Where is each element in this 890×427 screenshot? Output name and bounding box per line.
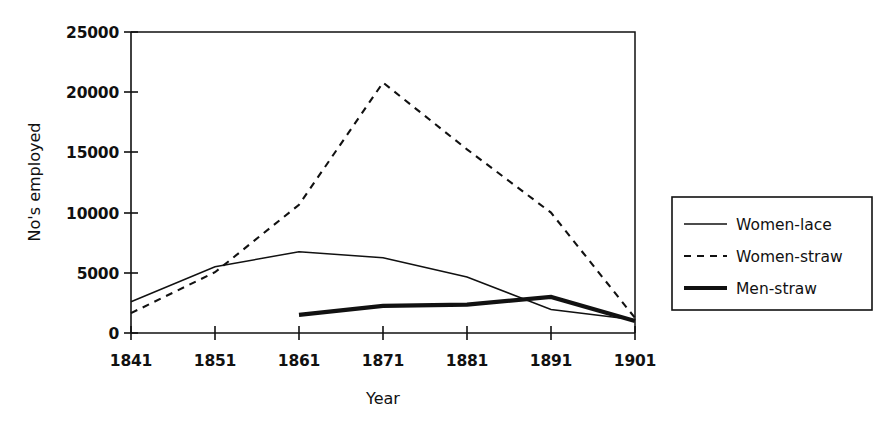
y-axis-tick-labels: 25000 20000 15000 10000 5000 0 [66, 24, 119, 343]
chart-figure: 25000 20000 15000 10000 5000 0 No's empl… [0, 0, 890, 427]
x-tick-label-1841: 1841 [110, 352, 152, 370]
x-tick-label-1891: 1891 [530, 352, 572, 370]
x-axis-title: Year [365, 389, 400, 408]
plot-frame [131, 32, 635, 333]
legend: Women-lace Women-straw Men-straw [672, 197, 872, 310]
x-tick-label-1851: 1851 [194, 352, 236, 370]
y-tick-label-15000: 15000 [66, 144, 119, 162]
y-tick-label-10000: 10000 [66, 205, 119, 223]
y-tick-label-20000: 20000 [66, 84, 119, 102]
y-tick-label-0: 0 [108, 325, 119, 343]
x-tick-label-1871: 1871 [362, 352, 404, 370]
frame-top-right-border [131, 32, 635, 333]
series-group [131, 83, 635, 321]
legend-label-men-straw: Men-straw [736, 280, 817, 298]
x-tick-label-1861: 1861 [278, 352, 320, 370]
series-line-men-straw [299, 297, 635, 321]
line-chart-svg: 25000 20000 15000 10000 5000 0 No's empl… [0, 0, 890, 427]
x-axis-tick-labels: 1841 1851 1861 1871 1881 1891 1901 [110, 352, 656, 370]
x-tick-label-1881: 1881 [446, 352, 488, 370]
series-line-women-straw [131, 83, 635, 318]
y-tick-label-25000: 25000 [66, 24, 119, 42]
legend-label-women-straw: Women-straw [736, 248, 843, 266]
y-axis-title: No's employed [25, 123, 44, 242]
legend-label-women-lace: Women-lace [736, 216, 832, 234]
y-tick-label-5000: 5000 [77, 265, 120, 283]
x-tick-label-1901: 1901 [614, 352, 656, 370]
series-line-women-lace [131, 252, 635, 320]
